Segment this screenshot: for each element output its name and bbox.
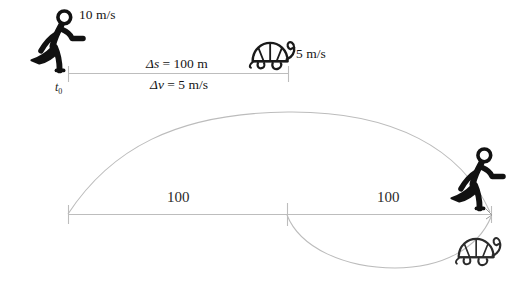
- runner-figure-top: [32, 11, 83, 70]
- runner-front-leg: [475, 185, 480, 208]
- turtle-tail: [250, 62, 253, 68]
- bottom-measurement-axis: [68, 203, 492, 226]
- diagram-vector-layer: [0, 0, 527, 292]
- turtle-tail: [456, 258, 459, 264]
- runner-figure-bottom: [452, 149, 503, 208]
- right-segment-distance-label: 100: [377, 190, 400, 205]
- turtle-head-icon: [288, 42, 294, 49]
- runner-speed-label-top: 10 m/s: [79, 8, 115, 22]
- turtle-front-leg: [258, 62, 265, 68]
- relative-speed-value: = 5 m/s: [164, 77, 208, 92]
- turtle-back-leg: [478, 258, 487, 265]
- runner-front-arm: [481, 167, 503, 176]
- turtle-front-leg: [464, 258, 471, 264]
- start-time-label: t0: [55, 81, 62, 96]
- turtle-figure-top: [250, 42, 294, 69]
- turtle-arc-path: [287, 215, 491, 268]
- turtle-figure-bottom: [456, 238, 500, 265]
- turtle-speed-label-top: 5 m/s: [296, 47, 326, 61]
- runner-head-icon: [58, 11, 71, 24]
- gap-distance-value: = 100 m: [159, 56, 208, 71]
- runner-head-icon: [478, 149, 491, 162]
- left-segment-distance-label: 100: [167, 190, 190, 205]
- gap-distance-delta: Δ: [146, 56, 154, 71]
- physics-diagram: 10 m/s 5 m/s Δs = 100 m Δv = 5 m/s t0 10…: [0, 0, 527, 292]
- turtle-back-leg: [272, 62, 281, 69]
- relative-speed-delta: Δ: [150, 77, 158, 92]
- runner-front-leg: [55, 47, 60, 70]
- runner-arc-path: [68, 112, 490, 214]
- runner-front-arm: [61, 29, 83, 38]
- relative-speed-label: Δv = 5 m/s: [150, 78, 208, 92]
- turtle-head-icon: [494, 238, 500, 245]
- start-time-subscript: 0: [58, 87, 62, 96]
- gap-distance-label: Δs = 100 m: [146, 57, 208, 71]
